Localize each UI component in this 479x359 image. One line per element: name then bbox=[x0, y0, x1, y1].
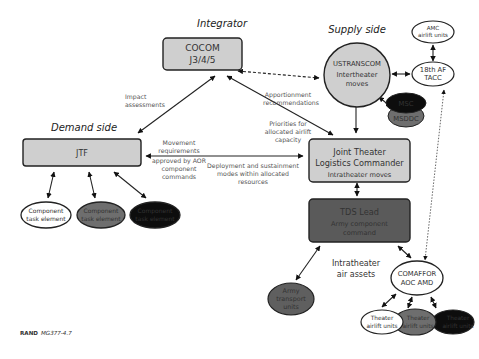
ustranscom-title: USTRANSCOM bbox=[333, 60, 381, 68]
label-movement-2: requirements bbox=[158, 147, 199, 155]
section-demand: Demand side bbox=[51, 122, 117, 133]
cocom-subtitle: J3/4/5 bbox=[189, 55, 216, 65]
theater-airlift-3-line1: Theater bbox=[446, 315, 470, 321]
logistics-diagram: Integrator Supply side Demand side COCOM… bbox=[0, 0, 479, 359]
node-jtlc: Joint Theater Logistics Commander Intrat… bbox=[309, 139, 410, 182]
cocom-title: COCOM bbox=[185, 43, 220, 53]
footer-org: RAND bbox=[20, 330, 38, 336]
section-supply: Supply side bbox=[328, 24, 386, 35]
label-apportionment-1: Apportionment bbox=[265, 91, 312, 99]
theater-airlift-1-line2: airlift units bbox=[366, 323, 397, 329]
jtlc-line2: Logistics Commander bbox=[315, 158, 404, 168]
army-line1: Army bbox=[283, 287, 300, 295]
theater-airlift-3-line2: airlift units bbox=[442, 323, 473, 329]
component-task-3-line2: task element bbox=[135, 215, 175, 222]
edge-jtf-component-1 bbox=[48, 172, 54, 198]
node-msc: MSC bbox=[386, 93, 426, 113]
jtlc-line1: Joint Theater bbox=[332, 147, 386, 157]
label-impact-2: assessments bbox=[125, 101, 165, 108]
amc-line1: AMC bbox=[427, 25, 440, 31]
edge-comaffor-airlift-3 bbox=[431, 297, 436, 308]
tds-line2: Army component bbox=[331, 220, 388, 228]
msc-label: MSC bbox=[399, 100, 414, 108]
tacc-line1: 18th AF bbox=[420, 66, 446, 74]
jtlc-line3: Intratheater moves bbox=[328, 171, 392, 179]
label-movement-1: Movement bbox=[163, 139, 196, 146]
edge-cocom-ustranscom bbox=[238, 71, 319, 78]
edge-comaffor-airlift-1 bbox=[382, 294, 396, 307]
node-tds-lead: TDS Lead Army component command bbox=[309, 199, 410, 242]
component-task-2-line1: Component bbox=[84, 207, 119, 215]
comaffor-line1: COMAFFOR bbox=[398, 270, 437, 278]
label-intratheater-air-2: air assets bbox=[337, 270, 375, 279]
component-task-elements: Component task element Component task el… bbox=[21, 202, 180, 228]
node-tacc: 18th AF TACC bbox=[412, 62, 454, 86]
node-ustranscom: USTRANSCOM Intertheater moves bbox=[324, 43, 390, 107]
footer-id: MG377-4.7 bbox=[41, 330, 72, 336]
footer-credit: RAND MG377-4.7 bbox=[20, 330, 72, 336]
label-movement-5: commands bbox=[162, 173, 196, 180]
edge-tds-comaffor bbox=[398, 246, 411, 258]
theater-airlift-1-line1: Theater bbox=[370, 315, 394, 321]
theater-airlift-3 bbox=[432, 310, 474, 334]
edge-comaffor-airlift-2 bbox=[408, 297, 412, 308]
edge-jtf-component-2 bbox=[89, 172, 95, 198]
edge-jtf-component-3 bbox=[114, 172, 146, 198]
edge-labels: Impact assessments Apportionment recomme… bbox=[125, 91, 381, 279]
tds-line3: command bbox=[343, 229, 376, 237]
label-movement-3: approved by AOR bbox=[152, 157, 207, 165]
edge-tds-army-transport bbox=[296, 246, 320, 280]
node-comaffor: COMAFFOR AOC AMD bbox=[391, 261, 443, 295]
theater-airlift-2-line2: airlift units bbox=[402, 323, 433, 329]
label-impact-1: Impact bbox=[125, 93, 147, 101]
label-movement-4: component bbox=[161, 165, 197, 173]
node-cocom: COCOM J3/4/5 bbox=[163, 38, 242, 70]
edge-tacc-comaffor bbox=[425, 90, 444, 260]
army-line2: transport bbox=[276, 295, 306, 303]
label-intratheater-air-1: Intratheater bbox=[332, 259, 381, 268]
section-integrator: Integrator bbox=[197, 18, 248, 29]
msddc-label: MSDDC bbox=[393, 115, 419, 123]
node-amc: AMC airlift units bbox=[412, 21, 454, 43]
jtf-label: JTF bbox=[75, 149, 88, 158]
component-task-1-line1: Component bbox=[29, 207, 64, 215]
label-apportionment-2: recommendations bbox=[263, 99, 319, 106]
comaffor-line2: AOC AMD bbox=[401, 279, 434, 287]
label-deployment-2: modes within allocated bbox=[217, 170, 289, 177]
ustranscom-line3: moves bbox=[346, 80, 369, 88]
component-task-1-line2: task element bbox=[26, 215, 66, 222]
theater-airlift-2-line1: Theater bbox=[406, 315, 430, 321]
theater-airlift-1 bbox=[361, 310, 403, 334]
label-deployment-3: resources bbox=[238, 178, 268, 185]
tds-line1: TDS Lead bbox=[339, 207, 379, 217]
ustranscom-line2: Intertheater bbox=[337, 71, 378, 79]
component-task-3-line1: Component bbox=[138, 207, 173, 215]
theater-airlift-units: Theater airlift units Theater airlift un… bbox=[361, 309, 474, 335]
node-jtf: JTF bbox=[23, 139, 141, 166]
label-priorities-1: Priorities for bbox=[269, 120, 307, 127]
tacc-line2: TACC bbox=[423, 74, 442, 82]
amc-line2: airlift units bbox=[418, 32, 448, 38]
node-army-transport: Army transport units bbox=[268, 283, 314, 315]
component-task-2-line2: task element bbox=[81, 215, 121, 222]
label-priorities-2: allocated airlift bbox=[265, 128, 312, 135]
label-priorities-3: capacity bbox=[275, 136, 301, 144]
army-line3: units bbox=[283, 303, 299, 311]
label-deployment-1: Deployment and sustainment bbox=[207, 162, 299, 170]
